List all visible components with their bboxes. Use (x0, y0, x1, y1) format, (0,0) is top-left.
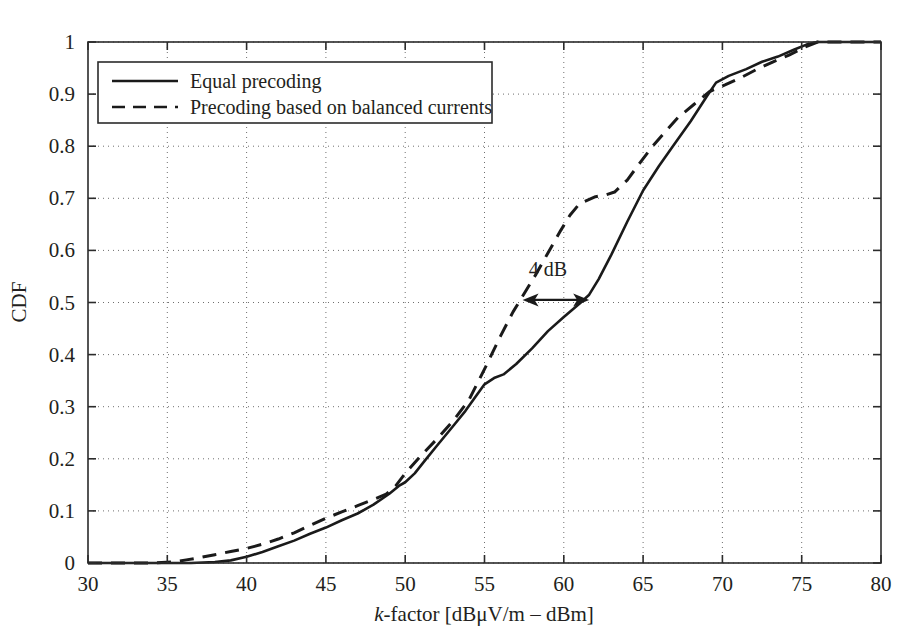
x-tick-label: 35 (157, 572, 178, 596)
y-tick-label: 0.4 (49, 343, 76, 367)
y-tick-label: 0.6 (49, 238, 75, 262)
y-tick-label: 0 (65, 551, 76, 575)
x-tick-label: 50 (395, 572, 416, 596)
y-tick-label: 0.3 (49, 395, 75, 419)
y-tick-label: 0.2 (49, 447, 75, 471)
x-tick-label: 75 (791, 572, 812, 596)
cdf-line-chart: 4 dB 3035404550556065707580 00.10.20.30.… (0, 0, 919, 642)
y-axis-title: CDF (7, 282, 31, 323)
x-tick-label: 60 (553, 572, 574, 596)
x-tick-label: 80 (871, 572, 892, 596)
y-tick-label: 0.1 (49, 499, 75, 523)
x-tick-label: 30 (78, 572, 99, 596)
legend-label-0: Equal precoding (190, 70, 322, 93)
x-tick-label: 40 (236, 572, 257, 596)
legend-label-1: Precoding based on balanced currents (190, 96, 492, 119)
chart-legend: Equal precoding Precoding based on balan… (98, 62, 492, 123)
x-tick-label: 65 (633, 572, 654, 596)
x-tick-label: 45 (315, 572, 336, 596)
x-tick-label: 70 (712, 572, 733, 596)
y-tick-label: 1 (65, 30, 76, 54)
chart-figure: 4 dB 3035404550556065707580 00.10.20.30.… (0, 0, 919, 642)
x-axis-title: k-factor [dBμV/m – dBm] (374, 602, 593, 626)
annotation-label: 4 dB (529, 258, 567, 280)
y-tick-label: 0.5 (49, 291, 75, 315)
y-tick-label: 0.9 (49, 82, 75, 106)
y-tick-label: 0.7 (49, 186, 75, 210)
x-tick-label: 55 (474, 572, 495, 596)
y-tick-label: 0.8 (49, 134, 75, 158)
